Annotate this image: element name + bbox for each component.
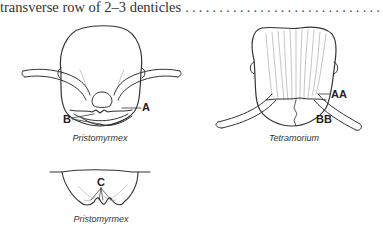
label-a: A [142,101,150,113]
pristomyrmex-head-drawing [22,26,181,126]
label-aa: AA [331,88,347,100]
caption-tetramorium-head: Tetramorium [269,133,319,143]
leader-line-b2 [72,119,100,124]
label-c: C [97,176,105,188]
label-bb: BB [316,113,332,125]
caption-pristomyrmex-clypeus: Pristomyrmex [73,214,128,224]
tetramorium-head-drawing [216,27,362,130]
label-b: B [63,113,71,125]
caption-pristomyrmex-head: Pristomyrmex [72,133,127,143]
